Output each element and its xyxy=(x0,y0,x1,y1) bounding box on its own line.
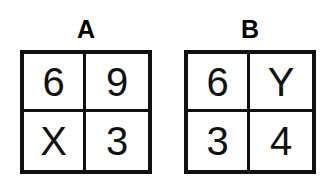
matrix-group-b: B 6 Y 3 4 xyxy=(184,0,316,187)
matrix-a-cell-r1c1: 3 xyxy=(86,112,148,170)
matrix-b-cell-r1c1: 4 xyxy=(250,112,312,170)
matrix-grid-b: 6 Y 3 4 xyxy=(184,50,316,174)
matrix-a-cell-r1c0: X xyxy=(24,112,86,170)
figure-canvas: A 6 9 X 3 B 6 Y 3 4 xyxy=(0,0,330,187)
matrix-grid-a: 6 9 X 3 xyxy=(20,50,152,174)
matrix-label-a: A xyxy=(20,15,152,43)
matrix-label-b: B xyxy=(184,15,316,43)
matrix-a-cell-r0c1: 9 xyxy=(86,54,148,112)
matrix-group-a: A 6 9 X 3 xyxy=(20,0,152,187)
matrix-a-cell-r0c0: 6 xyxy=(24,54,86,112)
matrix-b-cell-r0c0: 6 xyxy=(188,54,250,112)
matrix-b-cell-r1c0: 3 xyxy=(188,112,250,170)
matrix-b-cell-r0c1: Y xyxy=(250,54,312,112)
